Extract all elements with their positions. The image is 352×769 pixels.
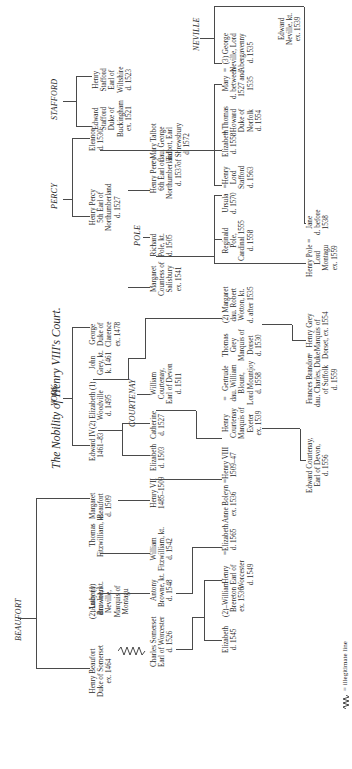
person-henry-vii: Henry VII 1485–1509 xyxy=(150,477,166,509)
person-henry-beaufort: Henry Beaufort Duke of Somerset ex. 1464 xyxy=(89,645,114,697)
person-edward-neville: Edward Neville, kt. ex. 1539 xyxy=(278,13,303,45)
line xyxy=(214,7,215,64)
line xyxy=(214,63,222,64)
person-mary-talbot: = Mary Talbot dau. George Talbot, Earl o… xyxy=(150,123,191,165)
line xyxy=(145,319,146,359)
line xyxy=(72,216,90,217)
person-henry-pole: Henry Pole = Lord Montagu ex. 1559 xyxy=(306,239,339,277)
line xyxy=(118,500,150,501)
line xyxy=(63,101,76,102)
line xyxy=(304,7,305,224)
house-label-stafford: STAFFORD xyxy=(50,79,59,120)
line xyxy=(196,411,197,439)
line xyxy=(192,618,193,650)
line xyxy=(122,423,150,424)
line xyxy=(128,287,150,288)
illegitimate-line-icon xyxy=(118,646,146,656)
person-henry-worcester: Henry Earl of Worcester d. 1549 xyxy=(222,560,255,589)
line xyxy=(214,150,222,151)
house-label-pole: POLE xyxy=(133,225,142,246)
line xyxy=(304,223,306,224)
person-henry-courtenay: Henry Courtenay Marquis of Exeter ex. 15… xyxy=(222,407,263,439)
person-jane: Jane d. before 1538 xyxy=(306,209,331,235)
house-label-beaufort: BEAUFORT xyxy=(14,598,23,641)
line xyxy=(100,553,150,554)
line xyxy=(137,394,150,395)
person-ursula: Ursula d. 1570 xyxy=(222,192,238,214)
person-henry-stafford-lord: =Henry Lord Stafford d. 1563 xyxy=(222,166,255,189)
line xyxy=(292,325,293,341)
line xyxy=(128,190,150,191)
person-anne-boleyn: Anne Boleyn ex. 1536 xyxy=(222,485,238,523)
line xyxy=(300,429,301,461)
line xyxy=(72,139,73,217)
line xyxy=(128,358,145,359)
line xyxy=(214,263,306,264)
person-mary-neville: Mary d. between 1527 and 1535 xyxy=(222,68,255,99)
person-thomas-howard: = Thomas Howard Duke of Norfolk d. 1554 xyxy=(222,106,263,135)
house-label-percy: PERCY xyxy=(50,183,59,209)
line xyxy=(76,76,92,77)
person-margaret-wotton: (2) Margaret dau. Robert Wotton, kt. d. … xyxy=(222,286,255,323)
line xyxy=(63,199,72,200)
line xyxy=(122,424,123,456)
line xyxy=(143,237,150,238)
person-antony-browne: Antony Browne, kt. d. 1548 xyxy=(150,573,175,607)
line xyxy=(72,327,90,328)
line xyxy=(98,593,150,594)
person-edward-stafford: Edward Stafford Duke of Buckingham ex. 1… xyxy=(92,100,133,137)
line xyxy=(72,445,90,446)
person-henry-percy-5: Henry Percy 5th Earl of Northumberland d… xyxy=(89,183,122,231)
person-george-neville: = (3) George Neville, Lord Abergavenny d… xyxy=(222,33,255,72)
legend-zigzag-icon xyxy=(343,695,349,709)
line xyxy=(176,649,192,650)
line xyxy=(196,438,222,439)
house-label-york: YORK xyxy=(50,384,59,406)
person-margaret-salisbury: Margaret Countess of Salisbury ex. 1541 xyxy=(150,262,183,296)
person-catherine: Catherine d. 1527 xyxy=(150,411,166,439)
legend-label: = illegitimate line xyxy=(341,641,349,691)
line xyxy=(204,580,222,581)
person-lucy-neville: (2) Lucy (1) dau. John Neville, Marquis … xyxy=(89,584,130,619)
line xyxy=(204,581,205,641)
line xyxy=(214,196,215,264)
line xyxy=(192,548,193,594)
line xyxy=(72,138,90,139)
genealogy-diagram: The Nobility of Henry VIII's Court. BEAU… xyxy=(0,0,352,769)
person-henry-grey: = Henry Grey Marquis of Dorset, ex. 1554 xyxy=(306,311,331,359)
line xyxy=(72,328,73,446)
house-label-neville: NEVILLE xyxy=(192,17,201,51)
line xyxy=(18,618,36,619)
line xyxy=(76,126,92,127)
line xyxy=(156,256,214,257)
person-frances-brandon: Frances Brandon dau. Charles, Duke of Su… xyxy=(306,352,339,407)
line xyxy=(128,359,129,380)
line xyxy=(192,547,222,548)
person-richard-pole: Richard Pole, kt. d. 1505 xyxy=(150,233,175,257)
line xyxy=(156,410,196,411)
person-william-courtenay: William Courtenay, Earl of Devon d. 1511 xyxy=(150,363,183,404)
person-elizabeth-woodville: (2) Elizabeth (1) Woodville d. 1495 xyxy=(89,382,114,430)
person-elizabeth-1503: Elizabeth d. 1503 xyxy=(150,444,166,471)
line xyxy=(100,150,214,151)
line xyxy=(98,430,122,431)
line xyxy=(156,479,222,480)
line xyxy=(292,340,306,341)
line xyxy=(192,617,204,618)
person-margaret-beaufort: Margaret Beaufort d. 1509 xyxy=(89,493,114,519)
person-elizabeth-2: Elizabeth d. 1545 xyxy=(222,626,238,653)
line xyxy=(36,499,37,669)
line xyxy=(93,379,128,380)
line xyxy=(214,185,222,186)
line xyxy=(20,619,21,620)
line xyxy=(214,195,222,196)
person-thomas-grey: Thomas Grey Marquis of Dorset d. 1530 xyxy=(222,329,263,361)
person-henry-viii: =Henry VIII 1509–47 xyxy=(222,447,238,483)
line xyxy=(300,460,306,461)
line xyxy=(214,84,222,85)
person-edward-courtenay: Edward Courtenay, Earl of Devon, d. 1556 xyxy=(306,438,331,493)
line xyxy=(36,668,90,669)
person-george-clarence: George Duke of Clarence ex. 1478 xyxy=(89,321,122,347)
line xyxy=(36,498,90,499)
person-henry-stafford-wiltshire: Henry Stafford Earl of Wiltshire d. 1523 xyxy=(92,67,133,93)
